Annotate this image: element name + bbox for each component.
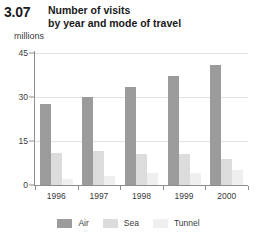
bar-sea-1996 [51, 153, 62, 185]
y-axis: 0153045 [0, 45, 34, 205]
bar-air-1999 [168, 76, 179, 185]
bar-tunnel-1997 [104, 176, 115, 185]
bar-air-1996 [40, 104, 51, 185]
y-tick-label-0: 0 [23, 180, 28, 190]
legend-swatch-air [57, 219, 72, 228]
bar-group-1998 [122, 53, 160, 185]
bar-tunnel-2000 [232, 170, 243, 185]
bar-air-2000 [210, 65, 221, 185]
figure-header: 3.07 Number of visits by year and mode o… [0, 0, 257, 42]
legend-item-tunnel[interactable]: Tunnel [153, 218, 200, 228]
x-tick-label-1996: 1996 [37, 191, 75, 205]
bar-sea-1999 [179, 154, 190, 185]
legend-label-tunnel: Tunnel [174, 218, 200, 228]
bar-tunnel-1996 [62, 179, 73, 185]
legend-swatch-tunnel [153, 219, 168, 228]
bar-sea-1998 [136, 154, 147, 185]
x-tick-mark-2 [120, 186, 121, 190]
figure-number: 3.07 [4, 4, 30, 20]
x-axis-labels: 19961997199819992000 [35, 191, 248, 205]
legend-item-sea[interactable]: Sea [103, 218, 139, 228]
y-tick-label-15: 15 [19, 136, 28, 146]
bar-group-1997 [80, 53, 118, 185]
y-tick-label-45: 45 [19, 48, 28, 58]
figure-title: Number of visits by year and mode of tra… [48, 4, 248, 29]
bar-tunnel-1998 [147, 173, 158, 185]
legend-swatch-sea [103, 219, 118, 228]
bar-groups [35, 53, 248, 185]
bar-tunnel-1999 [190, 173, 201, 185]
x-tick-label-1998: 1998 [122, 191, 160, 205]
x-tick-label-1997: 1997 [80, 191, 118, 205]
figure-title-line-2: by year and mode of travel [48, 17, 248, 30]
legend-label-sea: Sea [124, 218, 139, 228]
bar-air-1998 [125, 87, 136, 185]
x-tick-mark-3 [163, 186, 164, 190]
bar-group-1999 [165, 53, 203, 185]
figure-title-line-1: Number of visits [48, 4, 248, 17]
bar-group-2000 [208, 53, 246, 185]
bar-group-1996 [37, 53, 75, 185]
chart-legend: AirSeaTunnel [0, 213, 257, 233]
chart-plot-area: 0153045 19961997199819992000 [0, 45, 257, 205]
legend-label-air: Air [78, 218, 88, 228]
bar-sea-2000 [221, 159, 232, 185]
y-tick-label-30: 30 [19, 92, 28, 102]
x-tick-mark-4 [205, 186, 206, 190]
x-tick-label-2000: 2000 [208, 191, 246, 205]
bar-sea-1997 [93, 151, 104, 185]
x-tick-mark-5 [248, 186, 249, 190]
y-axis-units-label: millions [14, 31, 44, 41]
x-tick-mark-1 [78, 186, 79, 190]
x-tick-mark-0 [35, 186, 36, 190]
x-tick-label-1999: 1999 [165, 191, 203, 205]
legend-item-air[interactable]: Air [57, 218, 88, 228]
bar-air-1997 [82, 97, 93, 185]
